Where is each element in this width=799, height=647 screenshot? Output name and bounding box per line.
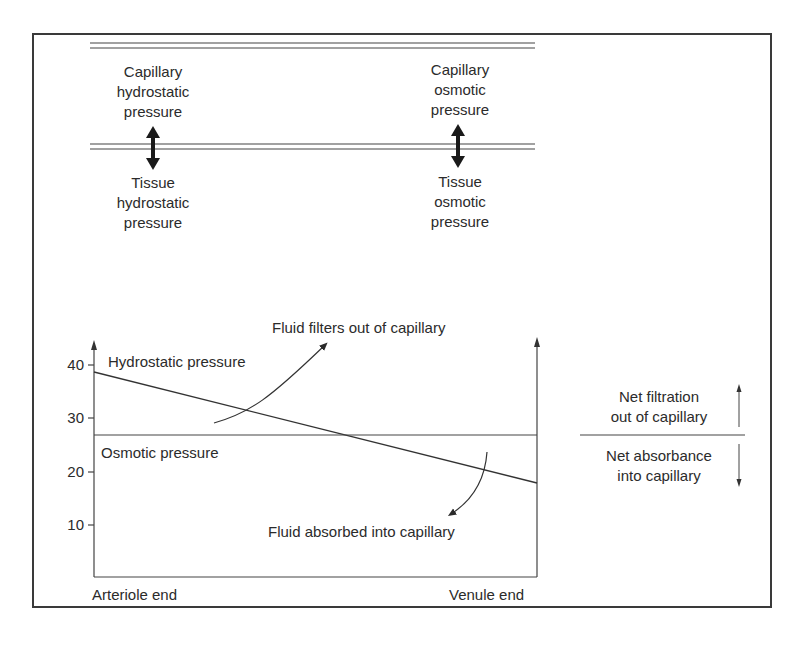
tissue-osmotic-label: Tissue osmotic pressure [405,172,515,232]
up-arrow-icon [737,384,742,427]
net-absorbance-label: Net absorbance into capillary [588,446,730,486]
osmotic-pressure-label: Osmotic pressure [101,443,219,463]
venule-end-label: Venule end [449,585,524,605]
y-tick-label: 30 [58,408,84,428]
label-line: Capillary [405,60,515,80]
label-line: pressure [98,102,208,122]
capillary-wall-top [90,43,535,48]
label-line: osmotic [405,80,515,100]
y-ticks [88,365,94,525]
label-line: Tissue [405,172,515,192]
double-arrow-icon [451,124,465,168]
capillary-wall-bottom [90,144,535,149]
label-line: osmotic [405,192,515,212]
label-line: hydrostatic [98,193,208,213]
double-arrow-icon [146,126,160,170]
label-line: Capillary [98,62,208,82]
label-line: into capillary [588,466,730,486]
label-line: pressure [98,213,208,233]
down-arrow-icon [737,444,742,487]
label-line: hydrostatic [98,82,208,102]
hydrostatic-pressure-label: Hydrostatic pressure [108,352,246,372]
label-line: pressure [405,212,515,232]
y-tick-label: 10 [58,515,84,535]
tissue-hydrostatic-label: Tissue hydrostatic pressure [98,173,208,233]
label-line: pressure [405,100,515,120]
y-tick-label: 20 [58,462,84,482]
arteriole-end-label: Arteriole end [92,585,177,605]
capillary-osmotic-label: Capillary osmotic pressure [405,60,515,120]
label-line: Tissue [98,173,208,193]
fluid-absorbed-label: Fluid absorbed into capillary [268,522,455,542]
net-filtration-label: Net filtration out of capillary [588,387,730,427]
label-line: Net absorbance [588,446,730,466]
fluid-filters-out-label: Fluid filters out of capillary [272,318,445,338]
label-line: out of capillary [588,407,730,427]
y-tick-label: 40 [58,355,84,375]
absorb-in-arrow-icon [451,452,487,514]
capillary-hydrostatic-label: Capillary hydrostatic pressure [98,62,208,122]
label-line: Net filtration [588,387,730,407]
hydrostatic-pressure-line [94,372,537,483]
